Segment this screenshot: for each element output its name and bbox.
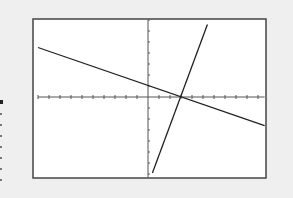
edge-marks [0,100,4,198]
graph-frame [33,19,266,178]
graph-screen [0,0,293,198]
